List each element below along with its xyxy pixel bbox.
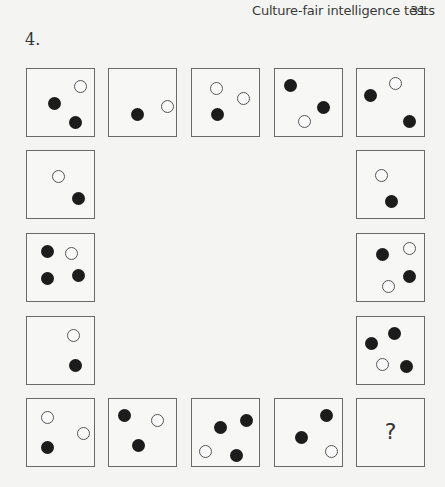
- hollow-circle-icon: [161, 100, 174, 113]
- puzzle-cell-r4c5: [356, 316, 425, 385]
- puzzle-cell-r1c4: [274, 68, 343, 137]
- puzzle-cell-r1c3: [191, 68, 260, 137]
- filled-circle-icon: [41, 245, 54, 258]
- hollow-circle-icon: [237, 92, 250, 105]
- hollow-circle-icon: [67, 329, 80, 342]
- hollow-circle-icon: [41, 411, 54, 424]
- filled-circle-icon: [385, 195, 398, 208]
- filled-circle-icon: [41, 272, 54, 285]
- hollow-circle-icon: [65, 247, 78, 260]
- hollow-circle-icon: [325, 445, 338, 458]
- filled-circle-icon: [132, 439, 145, 452]
- puzzle-cell-r3c1: [26, 233, 95, 302]
- filled-circle-icon: [72, 192, 85, 205]
- puzzle-cell-r1c1: [26, 68, 95, 137]
- hollow-circle-icon: [389, 77, 402, 90]
- filled-circle-icon: [320, 409, 333, 422]
- filled-circle-icon: [317, 101, 330, 114]
- puzzle-cell-r1c5: [356, 68, 425, 137]
- puzzle-cell-r5c4: [274, 398, 343, 467]
- puzzle-cell-r4c1: [26, 316, 95, 385]
- filled-circle-icon: [364, 89, 377, 102]
- puzzle-cell-r5c1: [26, 398, 95, 467]
- question-number: 4.: [25, 30, 40, 49]
- hollow-circle-icon: [375, 169, 388, 182]
- puzzle-cell-r5c3: [191, 398, 260, 467]
- running-head-title: Culture-fair intelligence tests: [252, 3, 435, 18]
- filled-circle-icon: [131, 108, 144, 121]
- page-number: 31: [410, 3, 426, 18]
- hollow-circle-icon: [52, 170, 65, 183]
- filled-circle-icon: [403, 270, 416, 283]
- filled-circle-icon: [295, 431, 308, 444]
- filled-circle-icon: [376, 248, 389, 261]
- hollow-circle-icon: [77, 427, 90, 440]
- hollow-circle-icon: [210, 82, 223, 95]
- running-head: Culture-fair intelligence tests 31: [250, 3, 430, 21]
- filled-circle-icon: [403, 115, 416, 128]
- filled-circle-icon: [240, 414, 253, 427]
- hollow-circle-icon: [151, 414, 164, 427]
- filled-circle-icon: [365, 337, 378, 350]
- puzzle-cell-r3c5: [356, 233, 425, 302]
- missing-cell: ?: [356, 398, 425, 467]
- hollow-circle-icon: [199, 445, 212, 458]
- hollow-circle-icon: [376, 358, 389, 371]
- filled-circle-icon: [72, 269, 85, 282]
- hollow-circle-icon: [403, 242, 416, 255]
- filled-circle-icon: [69, 116, 82, 129]
- hollow-circle-icon: [382, 280, 395, 293]
- filled-circle-icon: [400, 360, 413, 373]
- question-mark: ?: [357, 419, 424, 444]
- puzzle-cell-r2c5: [356, 150, 425, 219]
- puzzle-cell-r5c2: [108, 398, 177, 467]
- hollow-circle-icon: [74, 80, 87, 93]
- filled-circle-icon: [388, 327, 401, 340]
- filled-circle-icon: [214, 421, 227, 434]
- filled-circle-icon: [69, 359, 82, 372]
- filled-circle-icon: [48, 97, 61, 110]
- filled-circle-icon: [118, 409, 131, 422]
- filled-circle-icon: [230, 449, 243, 462]
- filled-circle-icon: [41, 441, 54, 454]
- hollow-circle-icon: [298, 115, 311, 128]
- puzzle-cell-r1c2: [108, 68, 177, 137]
- filled-circle-icon: [284, 79, 297, 92]
- filled-circle-icon: [211, 108, 224, 121]
- puzzle-cell-r2c1: [26, 150, 95, 219]
